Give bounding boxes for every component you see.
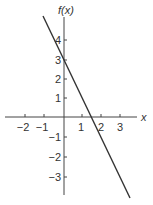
- x-tick-label: 1: [78, 121, 84, 133]
- y-tick-label: 1: [55, 92, 61, 104]
- function-graph: f(x) x −2 −1 1 2 3 4 3 2 1 −1 −2 −3: [0, 0, 153, 205]
- x-axis-label: x: [140, 111, 147, 123]
- y-axis-label: f(x): [58, 4, 74, 16]
- y-tick-label: 4: [55, 34, 61, 46]
- y-tick-label: 3: [55, 54, 61, 66]
- y-tick-label: −2: [48, 151, 61, 163]
- x-tick-label: −2: [17, 121, 30, 133]
- x-tick-label: 3: [117, 121, 123, 133]
- y-tick-label: 2: [55, 73, 61, 85]
- x-tick-label: −1: [36, 121, 49, 133]
- x-tick-label: 2: [98, 121, 104, 133]
- y-tick-label: −3: [48, 171, 61, 183]
- y-tick-label: −1: [48, 131, 61, 143]
